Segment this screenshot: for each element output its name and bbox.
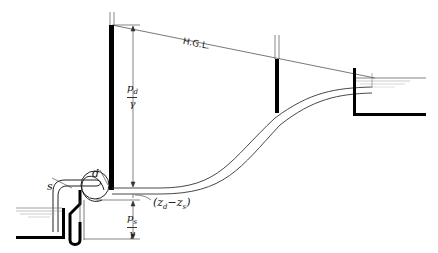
suction-label: s [47, 181, 53, 192]
middle-piezometer [275, 35, 279, 113]
upper-reservoir [353, 68, 426, 116]
pd-over-gamma: pd γ [127, 83, 138, 109]
discharge-pipe [112, 87, 372, 194]
suction-manometer [70, 190, 80, 245]
discharge-piezometer [109, 12, 114, 190]
ps-over-gamma: ps γ [127, 213, 137, 239]
hgl-line [112, 25, 375, 78]
leader-z [135, 195, 151, 200]
pump-hgl-diagram [0, 0, 438, 253]
elevation-difference-label: (zd−zs) [153, 197, 190, 211]
discharge-label: d [92, 168, 99, 179]
